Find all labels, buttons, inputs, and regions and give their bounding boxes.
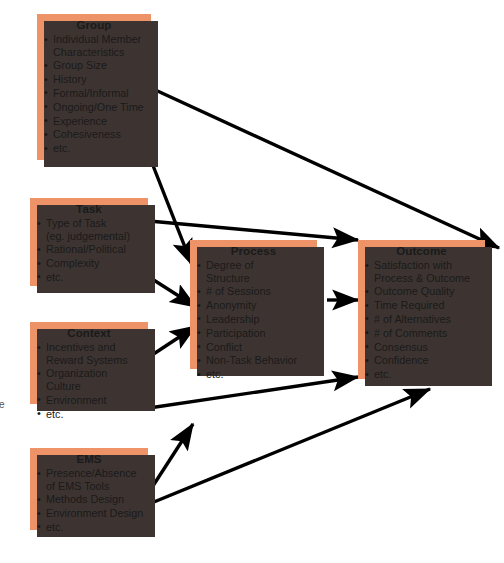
node-items-task: Type of Task (eg. judgemental) Rational/… (30, 217, 148, 289)
edge-group-to-process (152, 163, 192, 265)
list-item: # of Sessions (197, 285, 313, 298)
node-items-process: Degree of Structure # of Sessions Anonym… (190, 259, 317, 386)
node-ems[interactable]: EMS Presence/Absence of EMS Tools Method… (30, 448, 148, 530)
list-item: etc. (44, 142, 147, 155)
node-group[interactable]: Group Individual Member Characteristics … (37, 14, 151, 160)
list-item: Satisfaction with Process & Outcome (365, 259, 481, 284)
node-process[interactable]: Process Degree of Structure # of Session… (190, 240, 317, 369)
list-item: Organization Culture (37, 367, 144, 392)
node-title-group: Group (37, 14, 151, 33)
node-title-ems: EMS (30, 448, 148, 467)
list-item: Presence/Absence of EMS Tools (37, 467, 144, 492)
list-item: Environment (37, 394, 144, 407)
edge-context-to-process (149, 326, 196, 357)
list-item: Rational/Political (37, 243, 144, 256)
node-task[interactable]: Task Type of Task (eg. judgemental) Rati… (30, 198, 148, 286)
node-outcome[interactable]: Outcome Satisfaction with Process & Outc… (358, 240, 485, 379)
list-item: Ongoing/One Time (44, 101, 147, 114)
list-item: Non-Task Behavior (197, 354, 313, 367)
edge-group-to-outcome (151, 88, 499, 248)
node-items-ems: Presence/Absence of EMS Tools Methods De… (30, 467, 148, 539)
node-context[interactable]: Context Incentives and Reward Systems Or… (30, 322, 148, 404)
edge-ems-to-process (149, 424, 193, 492)
list-item: Cohesiveness (44, 128, 147, 141)
list-item: Methods Design (37, 493, 144, 506)
list-item: Outcome Quality (365, 285, 481, 298)
node-items-outcome: Satisfaction with Process & Outcome Outc… (358, 259, 485, 386)
list-item: Time Required (365, 299, 481, 312)
list-item: etc. (37, 521, 144, 534)
node-title-task: Task (30, 198, 148, 217)
node-items-group: Individual Member Characteristics Group … (37, 33, 151, 160)
list-item: Anonymity (197, 299, 313, 312)
list-item: Conflict (197, 341, 313, 354)
list-item: Incentives and Reward Systems (37, 341, 144, 366)
list-item: History (44, 73, 147, 86)
list-item: # of Alternatives (365, 313, 481, 326)
list-item: etc. (365, 368, 481, 381)
list-item: Environment Design (37, 507, 144, 520)
list-item: Formal/Informal (44, 87, 147, 100)
list-item: # of Comments (365, 327, 481, 340)
node-title-context: Context (30, 322, 148, 341)
edge-ems-to-outcome (149, 389, 430, 504)
list-item: Leadership (197, 313, 313, 326)
list-item: Group Size (44, 59, 147, 72)
node-title-process: Process (190, 240, 317, 259)
list-item: Experience (44, 115, 147, 128)
list-item: Confidence (365, 354, 481, 367)
list-item: etc. (37, 408, 144, 421)
list-item: Consensus (365, 341, 481, 354)
list-item: Degree of Structure (197, 259, 313, 284)
list-item: etc. (197, 368, 313, 381)
node-title-outcome: Outcome (358, 240, 485, 259)
list-item: Complexity (37, 257, 144, 270)
list-item: Individual Member Characteristics (44, 33, 147, 58)
diagram-canvas: e Group Individual Member Characteristic… (0, 0, 504, 563)
page-margin-mark: e (0, 399, 5, 410)
list-item: Participation (197, 327, 313, 340)
edge-task-to-process (149, 277, 196, 307)
node-items-context: Incentives and Reward Systems Organizati… (30, 341, 148, 425)
list-item: etc. (37, 271, 144, 284)
list-item: Type of Task (eg. judgemental) (37, 217, 144, 242)
